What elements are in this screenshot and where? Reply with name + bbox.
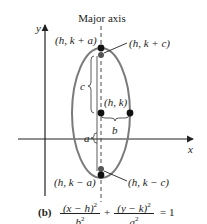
major-axis-title: Major axis: [78, 12, 125, 24]
top-focus-label: (h, k + c): [129, 37, 170, 50]
c-label: c: [80, 80, 85, 92]
top-focus-point: [98, 52, 104, 58]
a-brace: [91, 133, 97, 143]
b-label: b: [112, 124, 118, 136]
bottom-vertex-point: [98, 172, 105, 179]
equation-rhs: = 1: [160, 206, 174, 218]
term2-numerator: (y − k): [117, 202, 147, 214]
top-focus-leader: [104, 43, 127, 53]
equation-term-2: (y − k)2 a2: [114, 200, 154, 224]
co-vertex-point: [127, 110, 134, 117]
c-brace: [88, 56, 94, 113]
top-vertex-label: (h, k + a): [55, 34, 97, 47]
figure-label: (b): [38, 206, 51, 218]
equation-term-1: (x − h)2 b2: [60, 200, 100, 224]
term1-numerator: (x − h): [63, 202, 94, 214]
bottom-focus-label: (h, k − c): [128, 176, 169, 189]
ellipse-equation: (b) (x − h)2 b2 + (y − k)2 a2 = 1: [38, 200, 207, 224]
b-brace: [101, 115, 129, 121]
center-label: (h, k): [104, 96, 128, 109]
plus-sign: +: [104, 206, 110, 218]
ellipse-diagram: y x Major axis c b a (h, k + a) (h, k + …: [0, 0, 207, 224]
center-point: [98, 110, 105, 117]
bottom-focus-point: [98, 166, 104, 172]
a-label: a: [84, 132, 90, 144]
top-vertex-point: [98, 45, 105, 52]
bottom-vertex-label: (h, k − a): [54, 176, 96, 189]
x-axis-label: x: [187, 143, 193, 155]
y-axis-label: y: [35, 22, 41, 34]
